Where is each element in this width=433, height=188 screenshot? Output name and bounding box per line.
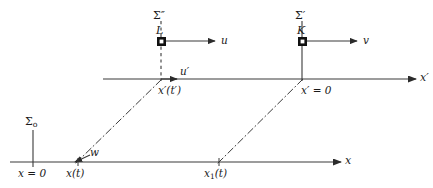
relativity-frames-diagram: Σ″ L u Σ′ K v u′ x′ x′(t′) x′ = 0 Σo w x… — [0, 0, 433, 188]
x-axis-label: x — [345, 155, 351, 166]
sigma-prime-label: Σ′ — [295, 10, 305, 21]
point-x-of-t-label: x(t) — [66, 168, 84, 179]
worldline-right — [218, 79, 303, 163]
marker-L-label: L — [156, 25, 163, 36]
velocity-v-label: v — [363, 35, 369, 46]
velocity-w-arrow — [75, 155, 90, 162]
velocity-u-label: u — [221, 35, 228, 46]
marker-K-label: K — [297, 25, 305, 36]
marker-square-L-inner — [160, 40, 164, 44]
velocity-u-prime-label: u′ — [180, 66, 189, 77]
sigma-double-prime-label: Σ″ — [153, 10, 165, 21]
sigma-o-label: Σo — [25, 116, 38, 129]
velocity-w-label: w — [90, 147, 99, 158]
marker-square-K-inner — [301, 40, 305, 44]
worldline-left — [76, 79, 162, 163]
x-prime-axis-label: x′ — [420, 72, 429, 83]
point-x-prime-t-prime-label: x′(t′) — [158, 85, 181, 96]
origin-x-prime-label: x′ = 0 — [301, 85, 331, 96]
origin-x-label: x = 0 — [18, 168, 46, 179]
diagram-canvas — [0, 0, 433, 188]
point-x1-of-t-label: x1(t) — [204, 168, 227, 180]
